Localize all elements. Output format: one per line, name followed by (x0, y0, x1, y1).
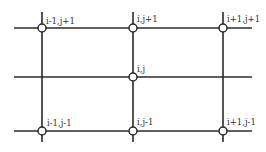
label-i-1-j+1: i-1,j+1 (46, 16, 75, 26)
label-i+1-j-1: i+1,j-1 (227, 117, 256, 127)
label-i+1-j+1: i+1,j+1 (227, 14, 260, 24)
node-i-j-1 (129, 127, 137, 135)
node-i-j+1 (129, 24, 137, 32)
node-i+1-j-1 (219, 127, 227, 135)
label-i-j-1: i,j-1 (137, 117, 153, 127)
node-i-1-j-1 (38, 127, 46, 135)
label-i-j+1: i,j+1 (137, 14, 158, 24)
label-i-1-j-1: i-1,j-1 (47, 118, 72, 128)
node-i-j (129, 73, 137, 81)
node-i+1-j+1 (219, 24, 227, 32)
stencil-diagram: i-1,j+1 i,j+1 i+1,j+1 i,j i-1,j-1 i,j-1 … (0, 0, 266, 152)
label-i-j: i,j (137, 64, 145, 74)
node-i-1-j+1 (38, 24, 46, 32)
